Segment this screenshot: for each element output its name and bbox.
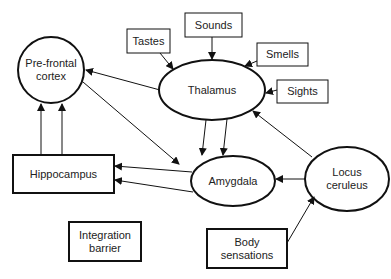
thalamus-label: Thalamus — [159, 80, 265, 100]
prefrontal-label-line2: cortex — [36, 70, 66, 83]
integration-label-line1: Integration — [79, 229, 131, 242]
edge-amygdala-hippocampus-2 — [115, 180, 193, 192]
edge-amygdala-hippocampus-1 — [115, 166, 192, 172]
body-label-line2: sensations — [221, 249, 274, 262]
edge-sights-thalamus — [266, 90, 277, 93]
edge-thalamus-amygdala-1 — [202, 120, 206, 155]
prefrontal-label-line1: Pre-frontal — [25, 57, 76, 70]
amygdala-label: Amygdala — [191, 171, 275, 191]
locus-label-line1: Locus — [332, 166, 361, 179]
edge-locus-thalamus — [253, 111, 312, 157]
edge-body-locus — [287, 197, 314, 243]
sounds-label: Sounds — [185, 13, 242, 37]
prefrontal-label: Pre-frontal cortex — [18, 55, 84, 85]
locus-label: Locus ceruleus — [305, 164, 389, 194]
diagram-canvas — [0, 0, 391, 279]
smells-label: Smells — [257, 43, 308, 66]
body-label: Body sensations — [207, 229, 287, 268]
sights-label: Sights — [277, 80, 328, 103]
edge-tastes-thalamus — [160, 53, 173, 69]
edge-thalamus-amygdala-2 — [223, 119, 227, 155]
edge-smells-thalamus — [245, 61, 257, 66]
integration-label: Integration barrier — [69, 222, 141, 261]
edge-thalamus-prefrontal — [86, 70, 160, 90]
integration-label-line2: barrier — [89, 242, 121, 255]
locus-label-line2: ceruleus — [326, 179, 368, 192]
body-label-line1: Body — [234, 236, 259, 249]
tastes-label: Tastes — [127, 29, 170, 53]
hippocampus-label: Hippocampus — [13, 155, 114, 193]
